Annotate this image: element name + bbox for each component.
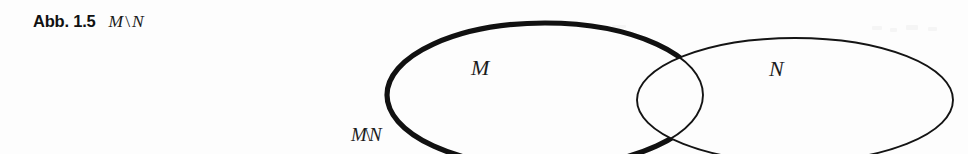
difference-operand-left: M	[351, 124, 365, 145]
ellipse-set-n	[637, 38, 953, 154]
highlight-m-minus-n-boundary	[387, 23, 703, 154]
set-label-n: N	[769, 58, 784, 80]
difference-operand-right: N	[369, 124, 380, 145]
figure-panel: Abb. 1.5M\N M N M\N	[0, 0, 968, 154]
set-label-m-minus-n: M\N	[351, 125, 380, 144]
set-label-m: M	[471, 57, 489, 79]
